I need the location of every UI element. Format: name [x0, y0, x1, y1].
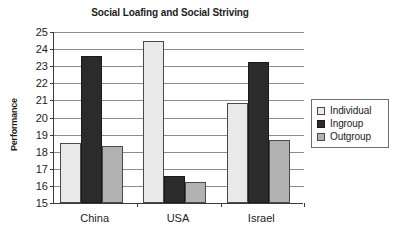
legend-label: Ingroup [330, 118, 363, 129]
chart-legend: IndividualIngroupOutgroup [311, 99, 389, 148]
y-tick-label: 24 [28, 43, 48, 55]
y-axis-label: Performance [6, 72, 22, 178]
y-tick-label: 22 [28, 77, 48, 89]
y-tick-label: 18 [28, 146, 48, 158]
bar-china-ingroup [81, 56, 102, 203]
x-axis-label-israel: Israel [220, 212, 303, 224]
chart-title: Social Loafing and Social Striving [0, 7, 340, 18]
legend-item-individual: Individual [317, 104, 383, 117]
bar-usa-outgroup [185, 182, 206, 203]
x-axis-label-usa: USA [136, 212, 219, 224]
bar-israel-individual [227, 103, 248, 203]
bar-china-outgroup [102, 146, 123, 203]
x-tick-mark [137, 203, 138, 207]
x-tick-mark [221, 203, 222, 207]
y-tick-label: 15 [28, 197, 48, 209]
bar-israel-outgroup [269, 140, 290, 203]
bar-china-individual [60, 143, 81, 203]
y-tick-label: 16 [28, 180, 48, 192]
legend-item-ingroup: Ingroup [317, 117, 383, 130]
y-tick-label: 25 [28, 26, 48, 38]
y-tick-label: 17 [28, 163, 48, 175]
legend-swatch-icon [317, 107, 325, 115]
bars-layer [54, 32, 304, 203]
x-axis-label-china: China [53, 212, 136, 224]
bar-group-china [60, 32, 123, 203]
bar-usa-individual [143, 41, 164, 203]
legend-label: Individual [330, 105, 371, 116]
bar-group-israel [227, 32, 290, 203]
legend-swatch-icon [317, 120, 325, 128]
bar-usa-ingroup [164, 176, 185, 203]
y-tick-label: 23 [28, 60, 48, 72]
y-tick-label: 21 [28, 94, 48, 106]
legend-item-outgroup: Outgroup [317, 130, 383, 143]
bar-chart: Social Loafing and Social Striving Perfo… [0, 0, 395, 240]
y-tick-label: 20 [28, 112, 48, 124]
bar-israel-ingroup [248, 62, 269, 203]
bar-group-usa [143, 32, 206, 203]
legend-label: Outgroup [330, 131, 371, 142]
y-tick-label: 19 [28, 129, 48, 141]
plot-area: 1516171819202122232425 [53, 32, 303, 204]
y-tick-mark [50, 203, 54, 204]
legend-swatch-icon [317, 133, 325, 141]
x-tick-mark [304, 203, 305, 207]
